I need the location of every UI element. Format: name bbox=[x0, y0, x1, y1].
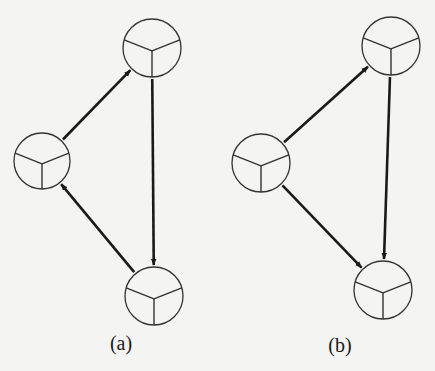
edge-a-top-to-a-bottom bbox=[152, 79, 154, 265]
node-b-bottom bbox=[354, 261, 412, 319]
node-divider-line bbox=[391, 38, 419, 49]
edge-a-bottom-to-a-left bbox=[61, 184, 134, 272]
diagram-label-b: (b) bbox=[328, 334, 351, 357]
node-divider-line bbox=[126, 288, 154, 299]
edge-a-left-to-a-top bbox=[63, 70, 130, 139]
node-divider-line bbox=[15, 153, 42, 164]
node-b-left bbox=[232, 134, 290, 192]
diagram-canvas bbox=[0, 0, 435, 371]
edge-b-left-to-b-bottom bbox=[282, 185, 361, 267]
node-divider-line bbox=[152, 40, 180, 51]
node-divider-line bbox=[363, 38, 391, 49]
node-a-bottom bbox=[125, 267, 183, 325]
edges-layer bbox=[61, 67, 390, 272]
node-b-top bbox=[362, 17, 420, 75]
node-divider-line bbox=[124, 40, 152, 51]
node-divider-line bbox=[154, 288, 182, 299]
node-divider-line bbox=[383, 282, 411, 293]
node-divider-line bbox=[261, 155, 289, 166]
node-a-left bbox=[14, 133, 70, 189]
edge-b-top-to-b-bottom bbox=[384, 77, 390, 259]
node-a-top bbox=[123, 19, 181, 77]
edge-b-left-to-b-top bbox=[284, 67, 368, 143]
diagram-label-a: (a) bbox=[110, 332, 132, 355]
node-divider-line bbox=[233, 155, 261, 166]
nodes-layer bbox=[14, 17, 420, 325]
node-divider-line bbox=[42, 153, 69, 164]
node-divider-line bbox=[355, 282, 383, 293]
